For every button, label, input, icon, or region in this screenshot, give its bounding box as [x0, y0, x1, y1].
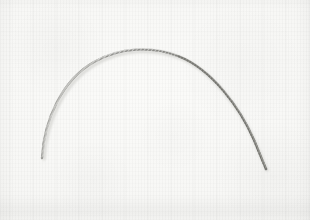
wire-twist-texture — [42, 49, 266, 169]
wire-left-tip — [41, 157, 43, 159]
wire-subject-layer — [0, 0, 310, 220]
wire-left-limb-shading — [42, 62, 94, 158]
wire-specular-highlight — [43, 48, 266, 168]
wire-right-tip — [265, 168, 268, 171]
wire-core-stroke — [42, 49, 266, 169]
wire-cast-shadow — [44, 51, 267, 170]
photograph: A thin twisted metal wire bent into a wi… — [0, 0, 310, 220]
wire-right-limb-shading — [178, 56, 266, 169]
wire-arch-svg — [0, 0, 310, 220]
